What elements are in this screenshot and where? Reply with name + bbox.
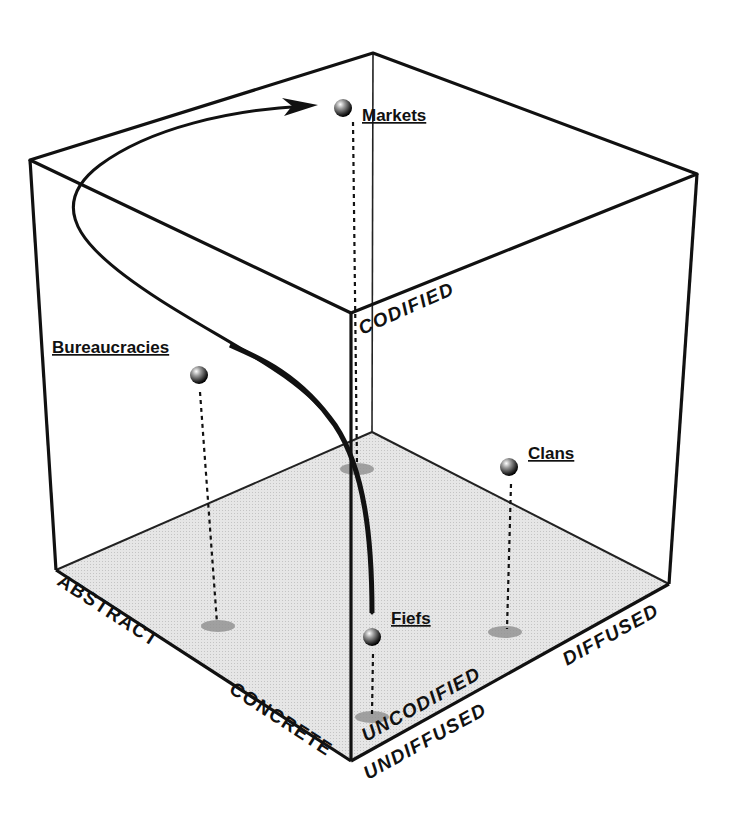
fiefs-ball-icon	[363, 628, 381, 646]
clans-ball-icon	[500, 458, 518, 476]
clans-shadow	[488, 626, 522, 638]
node-label-bureaucracies: Bureaucracies	[52, 338, 169, 357]
bureaucracies-shadow	[201, 620, 235, 632]
markets-ball-icon	[334, 99, 352, 117]
diagram-canvas: Markets Bureaucracies Clans Fiefs CODIFI…	[0, 0, 729, 821]
cube-floor	[56, 432, 669, 761]
node-label-markets: Markets	[362, 106, 426, 125]
node-label-fiefs: Fiefs	[391, 609, 431, 628]
axis-label-codified: CODIFIED	[355, 278, 457, 339]
markets-drop-line	[353, 122, 357, 466]
bureaucracies-ball-icon	[190, 366, 208, 384]
node-label-clans: Clans	[528, 444, 574, 463]
